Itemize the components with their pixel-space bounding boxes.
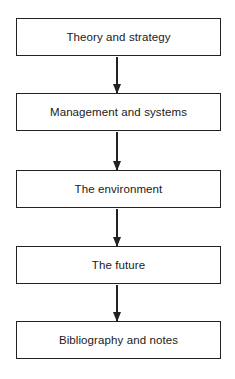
arrow-down-icon	[116, 57, 118, 93]
node-the-future: The future	[16, 246, 221, 284]
node-label: The environment	[75, 183, 163, 195]
node-label: Bibliography and notes	[59, 334, 178, 346]
node-management-and-systems: Management and systems	[16, 93, 221, 131]
arrow-down-icon	[116, 285, 118, 321]
node-label: Management and systems	[50, 106, 187, 118]
arrow-down-icon	[116, 132, 118, 170]
arrow-down-icon	[116, 209, 118, 246]
node-label: Theory and strategy	[66, 31, 170, 43]
node-the-environment: The environment	[16, 170, 221, 208]
node-bibliography-and-notes: Bibliography and notes	[16, 321, 221, 359]
node-theory-and-strategy: Theory and strategy	[16, 18, 221, 56]
node-label: The future	[92, 259, 145, 271]
